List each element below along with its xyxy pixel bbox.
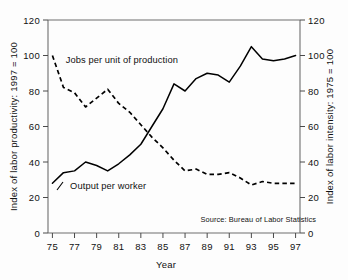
chart-figure: 0 20 40 60 80 100 120 0 20 40 60 80 100 … <box>0 0 348 280</box>
x-axis-title: Year <box>156 259 176 270</box>
y-ticklabel-80: 80 <box>29 86 40 97</box>
y-axis-ticks-left <box>43 20 48 233</box>
y2-ticklabel-80: 80 <box>308 86 319 97</box>
x-axis-ticklabels: 757779818385878991939597 <box>47 241 301 252</box>
y-ticklabel-120: 120 <box>23 15 40 26</box>
chart-canvas: 0 20 40 60 80 100 120 0 20 40 60 80 100 … <box>0 0 348 280</box>
x-ticklabel-87: 87 <box>179 241 190 252</box>
y-ticklabel-40: 40 <box>29 157 40 168</box>
x-ticklabel-79: 79 <box>91 241 102 252</box>
x-ticklabel-85: 85 <box>157 241 168 252</box>
annotation-source: Source: Bureau of Labor Statistics <box>201 215 317 224</box>
y-axis-ticklabels-left: 0 20 40 60 80 100 120 <box>23 15 40 239</box>
y-axis-title-right: Index of labor intensity: 1975 = 100 <box>324 49 335 204</box>
x-ticklabel-89: 89 <box>202 241 213 252</box>
plot-area-background <box>48 20 300 233</box>
y2-ticklabel-100: 100 <box>308 50 325 61</box>
x-ticklabel-93: 93 <box>246 241 257 252</box>
y-ticklabel-0: 0 <box>34 228 40 239</box>
x-ticklabel-77: 77 <box>69 241 80 252</box>
y-axis-ticks-right <box>300 20 305 233</box>
y-ticklabel-60: 60 <box>29 121 40 132</box>
y2-ticklabel-0: 0 <box>308 228 314 239</box>
y-axis-title-left: Index of labor productivity: 1997 = 100 <box>8 42 19 211</box>
x-ticklabel-83: 83 <box>135 241 146 252</box>
y2-ticklabel-120: 120 <box>308 15 325 26</box>
x-axis-ticks <box>52 233 295 238</box>
y-ticklabel-20: 20 <box>29 192 40 203</box>
y2-ticklabel-20: 20 <box>308 192 319 203</box>
annotation-jobs-per-unit-of-production: Jobs per unit of production <box>66 55 178 65</box>
y2-ticklabel-40: 40 <box>308 157 319 168</box>
x-ticklabel-75: 75 <box>47 241 58 252</box>
x-ticklabel-97: 97 <box>290 241 301 252</box>
y2-ticklabel-60: 60 <box>308 121 319 132</box>
y-axis-ticklabels-right: 0 20 40 60 80 100 120 <box>308 15 325 239</box>
y-ticklabel-100: 100 <box>23 50 40 61</box>
x-ticklabel-91: 91 <box>224 241 235 252</box>
x-ticklabel-81: 81 <box>113 241 124 252</box>
x-ticklabel-95: 95 <box>268 241 279 252</box>
annotation-output-per-worker: Output per worker <box>70 181 146 191</box>
